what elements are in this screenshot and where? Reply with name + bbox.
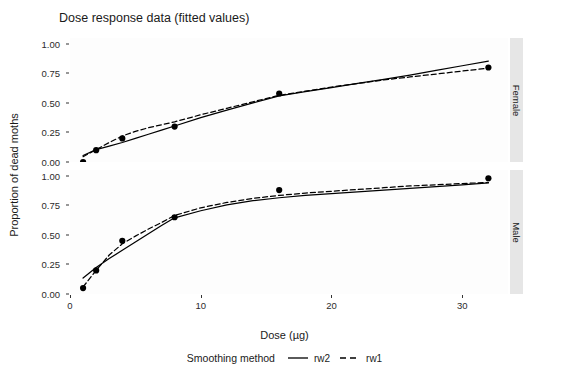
data-point [485,64,491,70]
x-axis-tick-label: 0 [67,300,72,311]
data-point [485,175,491,181]
data-point [119,135,125,141]
legend: Smoothing method rw2 rw1 [0,352,569,364]
chart-root: Dose response data (fitted values) Propo… [0,0,569,388]
legend-key-dashed-icon [339,353,361,363]
data-point [93,267,99,273]
legend-title: Smoothing method [187,352,275,364]
data-point [276,90,282,96]
facet-strip-female-label: Female [511,84,522,116]
x-axis-tick-label: 30 [457,300,468,311]
legend-item-rw2[interactable]: rw2 [287,353,330,364]
x-axis-tick-mark [331,295,332,298]
x-axis-tick-mark [462,295,463,298]
panel-male [70,170,508,294]
data-point [172,123,178,129]
x-axis-label: Dose (µg) [0,329,569,341]
x-axis-tick-mark [70,295,71,298]
data-point [119,238,125,244]
legend-key-solid-icon [287,353,309,363]
data-point [172,214,178,220]
facet-strip-male: Male [510,170,523,294]
panel-female [70,38,508,162]
facet-strip-female: Female [510,38,523,162]
legend-label-rw1: rw1 [366,353,382,364]
x-axis-tick-label: 10 [195,300,206,311]
data-point [93,147,99,153]
data-point [80,285,86,291]
x-axis-tick-mark [201,295,202,298]
legend-label-rw2: rw2 [314,353,330,364]
x-axis-tick-label: 20 [326,300,337,311]
data-point [276,187,282,193]
legend-item-rw1[interactable]: rw1 [339,353,382,364]
facet-strip-male-label: Male [511,222,522,243]
